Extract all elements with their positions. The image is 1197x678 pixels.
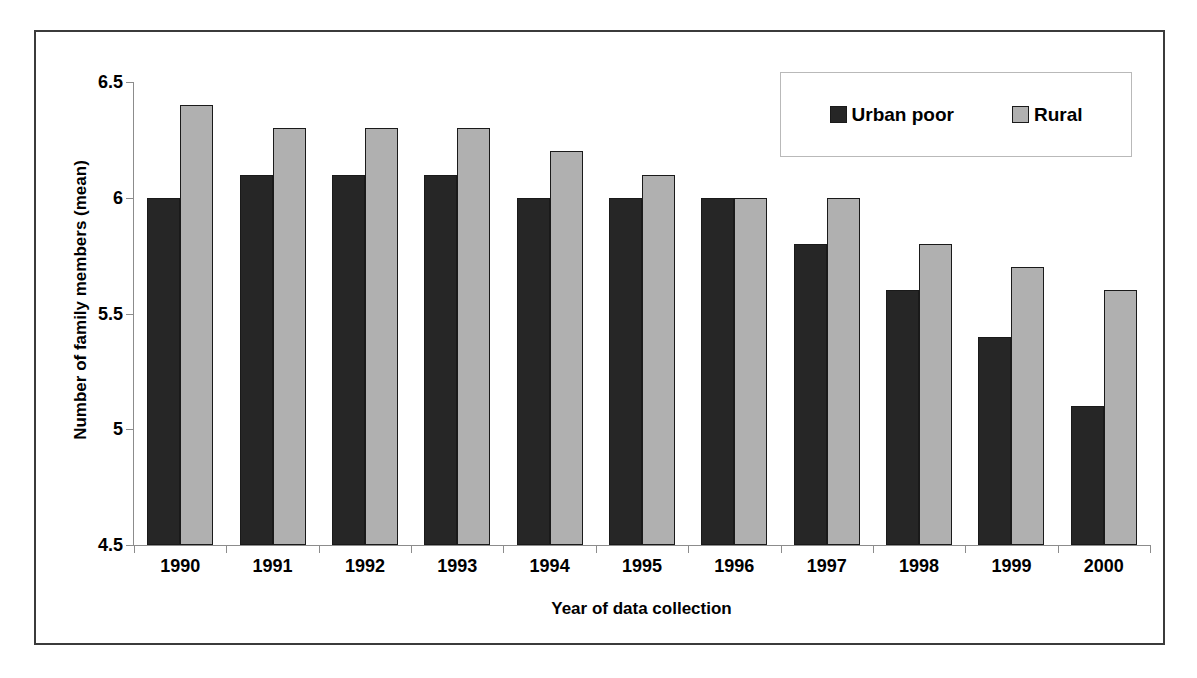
bar (1071, 406, 1104, 545)
x-category-label: 1991 (228, 556, 318, 577)
y-tick-label: 6.5 (67, 72, 123, 93)
x-tick-mark (319, 545, 320, 553)
x-category-label: 1996 (689, 556, 779, 577)
figure-frame: Number of family members (mean) 4.555.56… (34, 30, 1165, 645)
bar (365, 128, 398, 545)
bar (273, 128, 306, 545)
bar-chart: Number of family members (mean) 4.555.56… (36, 32, 1167, 647)
y-tick-mark (126, 545, 134, 546)
legend-swatch-icon (830, 106, 847, 123)
x-tick-mark (596, 545, 597, 553)
bar (919, 244, 952, 545)
bar-group (688, 82, 780, 545)
x-tick-mark (965, 545, 966, 553)
x-category-label: 1990 (135, 556, 225, 577)
bar (827, 198, 860, 545)
bar-group (596, 82, 688, 545)
x-category-label: 1992 (320, 556, 410, 577)
bar (180, 105, 213, 545)
x-category-label: 1995 (597, 556, 687, 577)
y-axis-tick-labels: 4.555.566.5 (61, 32, 123, 647)
y-tick-mark (126, 429, 134, 430)
legend-items: Urban poorRural (781, 73, 1131, 156)
y-tick-label: 5.5 (67, 303, 123, 324)
x-category-label: 1993 (412, 556, 502, 577)
legend-label: Urban poor (852, 104, 954, 126)
x-tick-mark (873, 545, 874, 553)
bar (609, 198, 642, 545)
bar (886, 290, 919, 545)
x-axis-line (133, 545, 1150, 546)
bar (701, 198, 734, 545)
bar-group (226, 82, 318, 545)
x-category-label: 1997 (782, 556, 872, 577)
bar (794, 244, 827, 545)
bar (332, 175, 365, 545)
x-category-label: 1999 (966, 556, 1056, 577)
legend-item: Urban poor (830, 104, 954, 126)
bar (734, 198, 767, 545)
bar (978, 337, 1011, 545)
y-tick-label: 5 (67, 419, 123, 440)
bar-group (319, 82, 411, 545)
legend-item: Rural (1012, 104, 1083, 126)
bar (1011, 267, 1044, 545)
bar (240, 175, 273, 545)
bar-group (134, 82, 226, 545)
x-tick-mark (1058, 545, 1059, 553)
legend: Urban poorRural (780, 72, 1132, 157)
y-tick-label: 4.5 (67, 535, 123, 556)
x-tick-mark (781, 545, 782, 553)
bar (550, 151, 583, 545)
bar-group (411, 82, 503, 545)
bar (1104, 290, 1137, 545)
x-tick-mark (688, 545, 689, 553)
y-tick-label: 6 (67, 187, 123, 208)
bar (457, 128, 490, 545)
legend-swatch-icon (1012, 106, 1029, 123)
y-tick-mark (126, 82, 134, 83)
bar (642, 175, 675, 545)
x-category-label: 1994 (505, 556, 595, 577)
x-category-label: 1998 (874, 556, 964, 577)
x-tick-mark (226, 545, 227, 553)
x-category-label: 2000 (1059, 556, 1149, 577)
bar (424, 175, 457, 545)
y-tick-mark (126, 314, 134, 315)
x-tick-mark (411, 545, 412, 553)
bar (517, 198, 550, 545)
y-tick-mark (126, 198, 134, 199)
bar (147, 198, 180, 545)
x-tick-mark (134, 545, 135, 553)
legend-label: Rural (1034, 104, 1083, 126)
bar-group (503, 82, 595, 545)
x-axis-title: Year of data collection (133, 599, 1150, 619)
x-tick-mark (1150, 545, 1151, 553)
x-tick-mark (503, 545, 504, 553)
